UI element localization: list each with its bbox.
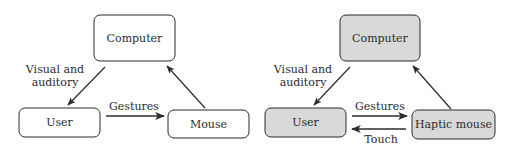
edge-label-gestures: Gestures: [355, 100, 405, 113]
edge-label-visual-auditory-line1: Visual and: [26, 63, 84, 76]
edge-label-visual-auditory-line2: auditory: [32, 76, 79, 89]
diagram-canvas: Computer User Mouse Visual and auditory …: [0, 0, 516, 153]
node-user-label: User: [19, 108, 100, 137]
node-mouse-label: Mouse: [168, 110, 249, 138]
arrow-mouse-to-computer: [167, 66, 205, 108]
node-user-label: User: [265, 108, 346, 137]
edge-label-visual-auditory-line1: Visual and: [274, 63, 332, 76]
node-haptic-mouse-label: Haptic mouse: [412, 110, 495, 139]
edge-label-visual-auditory-line2: auditory: [280, 76, 327, 89]
arrow-haptic-mouse-to-computer: [413, 66, 451, 109]
edge-label-touch: Touch: [364, 133, 397, 146]
edge-label-gestures: Gestures: [109, 100, 159, 113]
node-computer-label: Computer: [94, 15, 175, 61]
node-computer-label: Computer: [340, 15, 420, 61]
